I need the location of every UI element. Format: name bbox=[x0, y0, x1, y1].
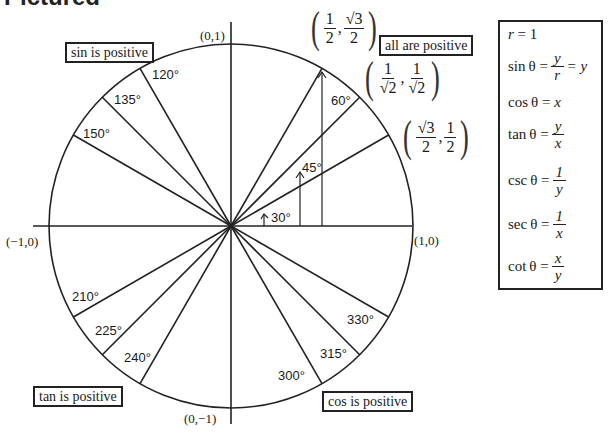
formula-csc: csc θ = 1y bbox=[508, 164, 569, 197]
formula-cot: cot θ = xy bbox=[508, 250, 567, 283]
point-label-left: (−1,0) bbox=[6, 234, 38, 250]
ray-120 bbox=[140, 68, 231, 226]
angle-label-330: 330° bbox=[347, 312, 374, 327]
angle-label-135: 135° bbox=[114, 92, 141, 107]
angle-label-60: 60° bbox=[331, 93, 351, 108]
point-label-right: (1,0) bbox=[414, 233, 439, 249]
ray-240 bbox=[140, 226, 231, 384]
ray-315 bbox=[231, 226, 360, 355]
angle-label-240: 240° bbox=[124, 350, 151, 365]
angle-label-120: 120° bbox=[152, 67, 179, 82]
angle-label-210: 210° bbox=[72, 289, 99, 304]
formula-tan: tan θ = yx bbox=[508, 118, 567, 151]
ray-45 bbox=[231, 97, 360, 226]
angle-label-45: 45° bbox=[302, 160, 322, 175]
ray-135 bbox=[102, 97, 231, 226]
formula-sin: sin θ = yr = y bbox=[508, 50, 587, 83]
formula-box: r = 1 sin θ = yr = y cos θ = x tan θ = y… bbox=[498, 20, 603, 290]
ray-150 bbox=[73, 135, 231, 226]
point-label-bottom: (0,−1) bbox=[184, 411, 216, 427]
angle-label-30: 30° bbox=[271, 210, 291, 225]
ray-60 bbox=[231, 68, 322, 226]
angle-label-225: 225° bbox=[95, 323, 122, 338]
ray-300 bbox=[231, 226, 322, 384]
quadrant-label-q3: tan is positive bbox=[33, 386, 123, 407]
coord-30: ( √32 , 12 ) bbox=[400, 115, 472, 159]
coord-45: ( 1√2 , 1√2 ) bbox=[362, 56, 443, 100]
formula-cos: cos θ = x bbox=[508, 94, 561, 111]
point-label-top: (0,1) bbox=[200, 28, 225, 44]
formula-sec: sec θ = 1x bbox=[508, 208, 569, 241]
formula-r: r = 1 bbox=[508, 26, 537, 43]
ray-330 bbox=[231, 226, 389, 317]
quadrant-label-q4: cos is positive bbox=[322, 391, 413, 412]
angle-label-315: 315° bbox=[320, 346, 347, 361]
angle-label-300: 300° bbox=[278, 368, 305, 383]
ray-30 bbox=[231, 135, 389, 226]
angle-label-150: 150° bbox=[83, 126, 110, 141]
quadrant-label-q2: sin is positive bbox=[65, 42, 154, 63]
coord-60: ( 12 , √32 ) bbox=[308, 6, 380, 50]
quadrant-label-q1: all are positive bbox=[379, 35, 473, 56]
